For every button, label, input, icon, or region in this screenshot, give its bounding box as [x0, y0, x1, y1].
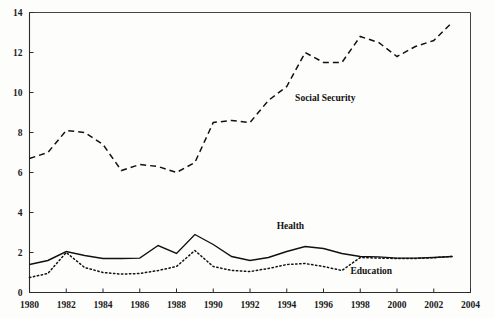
x-tick-label: 2002: [424, 300, 443, 310]
x-tick-label: 1980: [20, 300, 39, 310]
y-tick-label: 2: [18, 248, 23, 258]
y-tick-label: 6: [18, 168, 23, 178]
x-tick-label: 1994: [277, 300, 296, 310]
y-tick-label: 4: [18, 208, 23, 218]
y-tick-label: 14: [13, 8, 23, 18]
y-tick-label: 8: [18, 128, 23, 138]
x-axis-labels: 1980198219841986198819901992199419961998…: [20, 300, 480, 310]
chart-container: 02468101214 1980198219841986198819901992…: [0, 0, 494, 318]
y-axis-labels: 02468101214: [13, 8, 23, 298]
x-tick-label: 1990: [204, 300, 223, 310]
x-tick-label: 1996: [314, 300, 333, 310]
data-series: [30, 23, 453, 278]
x-tick-label: 1992: [241, 300, 260, 310]
y-tick-label: 12: [13, 48, 23, 58]
series-label-social-security: Social Security: [295, 93, 356, 103]
x-tick-label: 2004: [461, 300, 480, 310]
series-annotations: Social SecurityHealthEducation: [277, 93, 393, 277]
series-label-health: Health: [277, 221, 305, 231]
x-tick-label: 1986: [130, 300, 149, 310]
axis-ticks: [30, 13, 471, 293]
x-tick-label: 1998: [351, 300, 370, 310]
y-tick-label: 10: [13, 88, 23, 98]
y-tick-label: 0: [18, 288, 23, 298]
x-tick-label: 1982: [57, 300, 76, 310]
series-label-education: Education: [350, 266, 392, 276]
x-tick-label: 2000: [388, 300, 407, 310]
x-tick-label: 1984: [94, 300, 113, 310]
plot-border: [30, 13, 471, 293]
line-chart: 02468101214 1980198219841986198819901992…: [0, 0, 494, 318]
series-line-social-security: [30, 23, 453, 173]
series-line-health: [30, 235, 453, 265]
plot-frame: [30, 13, 471, 293]
x-tick-label: 1988: [167, 300, 186, 310]
